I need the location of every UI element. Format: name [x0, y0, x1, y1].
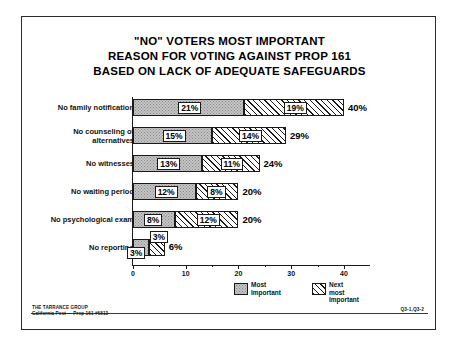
x-axis-tick-label: 30 — [287, 270, 295, 277]
footer-source: THE TARRANCE GROUP California Post — Pro… — [32, 305, 108, 317]
title-line-1: "NO" VOTERS MOST IMPORTANT — [22, 34, 437, 49]
bar-row — [133, 99, 344, 116]
value-label-next-most-important: 12% — [197, 214, 220, 226]
value-label-most-important: 8% — [144, 214, 162, 226]
total-label: 40% — [348, 102, 367, 113]
bar-row — [133, 127, 286, 144]
total-label: 20% — [242, 186, 261, 197]
total-label: 6% — [169, 241, 183, 252]
x-axis-tick-label: 0 — [131, 270, 135, 277]
x-axis-minor-tick — [265, 265, 266, 267]
category-label: No counseling ofalternatives — [34, 127, 134, 145]
plot-area: No family notificationNo counseling ofal… — [22, 97, 437, 282]
value-label-most-important: 13% — [157, 158, 180, 170]
x-axis-tick — [133, 265, 134, 269]
x-axis-tick-label: 40 — [340, 270, 348, 277]
value-label-most-important: 21% — [178, 102, 201, 114]
total-label: 24% — [264, 158, 283, 169]
x-axis-minor-tick — [212, 265, 213, 267]
footer-study: California Post — Prop 161 #6813 — [32, 311, 108, 317]
value-label-next-most-important: 19% — [284, 102, 307, 114]
x-axis-tick — [344, 265, 345, 269]
legend-label: Most Important — [251, 281, 281, 296]
value-label-most-important: 15% — [163, 130, 186, 142]
chart-legend: Most ImportantNext most Important — [22, 281, 437, 307]
value-label-next-most-important: 8% — [207, 186, 225, 198]
x-axis-tick-label: 20 — [235, 270, 243, 277]
x-axis-line — [132, 265, 370, 266]
x-axis-minor-tick — [159, 265, 160, 267]
legend-swatch-next-most-important — [312, 283, 326, 295]
value-label-next-most-important: 3% — [150, 231, 168, 243]
x-axis-tick — [186, 265, 187, 269]
chart-title: "NO" VOTERS MOST IMPORTANT REASON FOR VO… — [22, 34, 437, 79]
title-line-2: REASON FOR VOTING AGAINST PROP 161 — [22, 49, 437, 64]
value-label-next-most-important: 14% — [239, 130, 262, 142]
category-label: No family notification — [34, 103, 134, 112]
footer-code: Q3-1,Q3-2 — [400, 307, 424, 312]
total-label: 20% — [242, 214, 261, 225]
title-line-3: BASED ON LACK OF ADEQUATE SAFEGUARDS — [22, 64, 437, 79]
legend-label: Next most Important — [329, 281, 359, 304]
x-axis-minor-tick — [318, 265, 319, 267]
category-label: No reporting — [34, 243, 134, 252]
value-label-most-important: 12% — [155, 186, 178, 198]
chart-page-frame: "NO" VOTERS MOST IMPORTANT REASON FOR VO… — [21, 16, 436, 330]
category-label: No witnesses — [34, 159, 134, 168]
x-axis-tick — [291, 265, 292, 269]
category-label: No waiting period — [34, 187, 134, 196]
value-label-most-important: 3% — [127, 247, 145, 259]
category-label: No psychological exam — [34, 215, 134, 224]
x-axis-tick — [238, 265, 239, 269]
x-axis-tick-label: 10 — [182, 270, 190, 277]
legend-swatch-most-important — [234, 283, 248, 295]
value-label-next-most-important: 11% — [221, 158, 244, 170]
total-label: 29% — [290, 130, 309, 141]
